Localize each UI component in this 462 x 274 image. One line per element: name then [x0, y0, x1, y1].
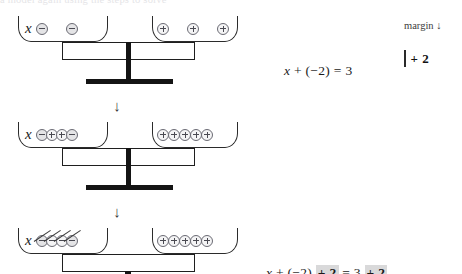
right-pan-3	[152, 228, 238, 254]
left-pan-2: x	[18, 122, 108, 148]
scale-arm-right-2	[128, 148, 195, 166]
margin-note: + 2	[404, 50, 429, 67]
scale-arm-right-1	[128, 42, 195, 60]
cut-off-header-text: a model again using the steps to solve	[0, 0, 462, 6]
balance-scale-1: x	[0, 12, 240, 98]
margin-note-value: + 2	[411, 51, 430, 67]
stage-1-original-equation: x x + (−2) = 3	[0, 12, 462, 98]
equation-part: + (−2) = 3	[290, 63, 352, 78]
right-pan-chips-2	[157, 129, 213, 141]
positive-chip-icon	[217, 23, 229, 35]
positive-chip-icon	[187, 23, 199, 35]
scale-arm-left-2	[62, 148, 128, 166]
margin-label: margin ↓	[404, 20, 441, 31]
scale-base-2	[86, 185, 173, 190]
right-pan-chips-3	[157, 235, 213, 247]
scale-post-1	[126, 42, 131, 82]
variable-x-label: x	[25, 233, 32, 248]
left-pan-1: x	[18, 16, 108, 42]
left-pan-chips-1	[36, 23, 78, 35]
right-pan-2	[152, 122, 238, 148]
negative-chip-icon	[66, 23, 78, 35]
transition-arrow-1-icon: ↓	[110, 99, 124, 114]
right-pan-chips-1	[157, 23, 229, 35]
positive-chip-icon	[201, 235, 213, 247]
scale-post-2	[126, 148, 131, 188]
scale-arm-left-3	[62, 254, 128, 272]
margin-label-text: margin	[404, 20, 434, 31]
balance-scale-3: x	[0, 224, 240, 274]
balance-scale-2: x	[0, 118, 240, 204]
right-pan-1	[152, 16, 238, 42]
left-pan-chips-3	[36, 235, 78, 247]
scale-arm-right-3	[128, 254, 195, 272]
positive-chip-icon	[157, 23, 169, 35]
stage-3-solution: x x = 5	[0, 224, 462, 274]
scale-arm-left-1	[62, 42, 128, 60]
positive-chip-icon	[201, 129, 213, 141]
variable-x-label: x	[25, 127, 32, 142]
cancelled-negative-chip-icon	[66, 235, 78, 247]
left-pan-3: x	[18, 228, 108, 254]
scale-base-1	[86, 79, 173, 84]
equation-1: x + (−2) = 3	[284, 63, 352, 79]
margin-rule-divider	[404, 50, 406, 67]
left-pan-chips-2	[36, 129, 78, 141]
negative-chip-icon	[66, 129, 78, 141]
variable-x-label: x	[25, 21, 32, 36]
transition-arrow-2-icon: ↓	[110, 205, 124, 220]
stage-2-add-two-both-sides: x x + (−2) + 2 = 3 + 2	[0, 118, 462, 204]
margin-down-arrow-icon: ↓	[436, 20, 441, 31]
negative-chip-icon	[36, 23, 48, 35]
